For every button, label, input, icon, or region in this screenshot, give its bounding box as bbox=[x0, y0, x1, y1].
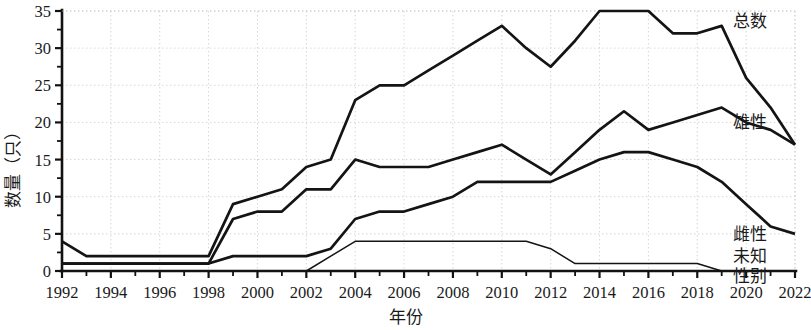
x-tick-label: 2002 bbox=[290, 283, 323, 302]
y-tick-label: 10 bbox=[35, 188, 52, 207]
x-tick-label: 2006 bbox=[388, 283, 421, 302]
x-tick-label: 1998 bbox=[192, 283, 225, 302]
series-label-0: 总数 bbox=[733, 12, 767, 31]
series-line-1 bbox=[62, 108, 795, 264]
y-tick-label: 25 bbox=[35, 76, 52, 95]
series-lines bbox=[62, 11, 795, 271]
x-tick-label: 2022 bbox=[779, 283, 811, 302]
x-tick-labels: 1992199419961998200020022004200620082010… bbox=[46, 283, 811, 302]
x-tick-label: 2004 bbox=[339, 283, 372, 302]
x-tick-label: 2000 bbox=[241, 283, 274, 302]
y-tick-label: 20 bbox=[35, 113, 52, 132]
x-tick-label: 2016 bbox=[632, 283, 665, 302]
y-tick-label: 35 bbox=[35, 2, 52, 21]
x-tick-label: 1996 bbox=[143, 283, 176, 302]
series-label-2: 雌性 bbox=[733, 225, 767, 244]
y-tick-label: 5 bbox=[43, 225, 51, 244]
chart-plot-area: 1992199419961998200020022004200620082010… bbox=[0, 0, 811, 330]
x-tick-label: 2008 bbox=[436, 283, 469, 302]
axis-ticks bbox=[55, 11, 795, 278]
x-axis-title: 年份 bbox=[0, 303, 811, 328]
y-tick-label: 15 bbox=[35, 151, 52, 170]
series-label-1: 雄性 bbox=[733, 113, 767, 132]
x-tick-label: 2010 bbox=[485, 283, 518, 302]
y-tick-labels: 05101520253035 bbox=[35, 2, 52, 281]
y-axis-title: 数量（只） bbox=[0, 105, 24, 225]
series-labels: 总数雄性雌性未知性别 bbox=[733, 12, 767, 286]
x-tick-label: 2018 bbox=[681, 283, 714, 302]
series-line-2 bbox=[62, 152, 795, 263]
y-tick-label: 0 bbox=[43, 262, 51, 281]
series-label-3: 未知性别 bbox=[733, 247, 767, 286]
gridlines bbox=[62, 11, 795, 271]
axis-lines bbox=[61, 10, 796, 271]
series-line-0 bbox=[62, 11, 795, 256]
x-tick-label: 1994 bbox=[94, 283, 127, 302]
x-tick-label: 1992 bbox=[46, 283, 79, 302]
line-chart: 1992199419961998200020022004200620082010… bbox=[0, 0, 811, 330]
y-tick-label: 30 bbox=[35, 39, 52, 58]
x-tick-label: 2014 bbox=[583, 283, 616, 302]
x-tick-label: 2012 bbox=[534, 283, 567, 302]
